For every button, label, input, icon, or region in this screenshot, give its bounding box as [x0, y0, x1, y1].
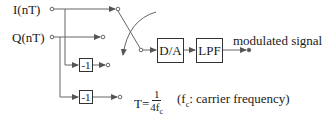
period-prefix: T=: [134, 96, 149, 112]
inverter-block-i: -1: [79, 58, 93, 72]
da-label: D/A: [159, 43, 181, 59]
note-text: : carrier frequency): [189, 91, 289, 106]
inverter-label: -1: [81, 59, 90, 71]
lpf-block: LPF: [196, 38, 223, 63]
modulator-diagram: I(nT) Q(nT) -1 -1 D/A LPF modulated sign…: [0, 0, 336, 120]
carrier-frequency-note: (fc: carrier frequency): [177, 92, 290, 109]
lpf-label: LPF: [198, 43, 220, 59]
period-numerator: 1: [152, 89, 162, 101]
inverter-label: -1: [81, 91, 90, 103]
da-converter-block: D/A: [157, 38, 184, 63]
period-denominator-sub: c: [159, 107, 163, 116]
input-q-label: Q(nT): [12, 31, 45, 44]
period-formula: T= 1 4fc: [134, 89, 163, 118]
input-i-label: I(nT): [13, 3, 40, 16]
note-open: (f: [177, 91, 186, 106]
inverter-block-q: -1: [79, 90, 93, 104]
output-label: modulated signal: [233, 34, 322, 47]
